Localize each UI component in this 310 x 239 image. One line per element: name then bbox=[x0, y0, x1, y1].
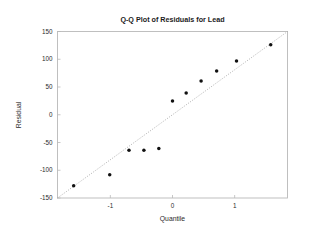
data-point bbox=[184, 91, 188, 95]
y-tick-label: 50 bbox=[45, 83, 53, 90]
x-axis-label: Quantile bbox=[160, 215, 186, 223]
data-point bbox=[215, 69, 219, 73]
y-axis-label: Residual bbox=[15, 101, 22, 128]
chart-title: Q-Q Plot of Residuals for Lead bbox=[120, 15, 224, 24]
x-tick-label: 1 bbox=[233, 202, 237, 209]
data-point bbox=[171, 99, 175, 103]
qq-plot-figure: Q-Q Plot of Residuals for Lead 150100500… bbox=[0, 0, 310, 239]
data-point bbox=[127, 149, 131, 153]
x-tick-label: 0 bbox=[171, 202, 175, 209]
data-point bbox=[108, 173, 112, 177]
y-tick-label: 100 bbox=[42, 55, 53, 62]
data-point bbox=[157, 147, 161, 151]
chart-canvas: Q-Q Plot of Residuals for Lead 150100500… bbox=[0, 0, 310, 239]
y-tick-label: 0 bbox=[49, 111, 53, 118]
y-tick-label: -100 bbox=[40, 166, 53, 173]
y-tick-label: -50 bbox=[43, 139, 53, 146]
data-point bbox=[269, 43, 273, 47]
y-tick-label: -150 bbox=[40, 194, 53, 201]
data-point bbox=[72, 184, 76, 188]
data-point bbox=[142, 149, 146, 153]
x-tick-label: -1 bbox=[108, 202, 114, 209]
y-tick-label: 150 bbox=[42, 28, 53, 35]
data-point bbox=[199, 79, 203, 83]
data-point bbox=[235, 59, 239, 63]
